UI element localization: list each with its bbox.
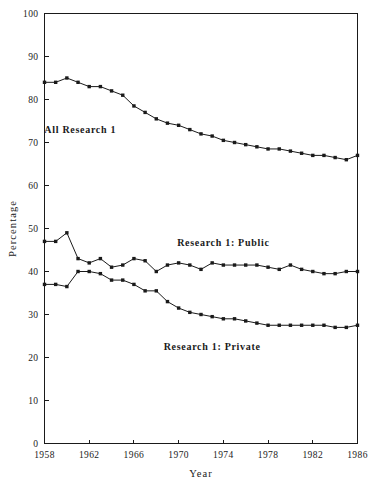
series-marker [345, 158, 348, 161]
y-tick-label: 100 [23, 9, 38, 19]
x-tick-label: 1970 [168, 450, 189, 460]
series-marker [266, 324, 269, 327]
series-marker [43, 240, 46, 243]
series-marker [255, 145, 258, 148]
series-marker [132, 283, 135, 286]
series-marker [54, 240, 57, 243]
series-marker [199, 313, 202, 316]
series-marker [333, 156, 336, 159]
series-marker [199, 268, 202, 271]
series-marker [311, 324, 314, 327]
series-marker [255, 321, 258, 324]
series-marker [132, 257, 135, 260]
chart-figure: 0102030405060708090100 19581962196619701… [0, 0, 380, 488]
series-marker [322, 272, 325, 275]
y-axis-tick-marks [45, 14, 49, 444]
series-marker [311, 154, 314, 157]
series-marker [322, 324, 325, 327]
series-marker [278, 147, 281, 150]
series-label-1: Research 1: Public [177, 237, 269, 248]
y-tick-label: 0 [33, 439, 38, 449]
series-marker [188, 263, 191, 266]
y-axis-tick-labels: 0102030405060708090100 [23, 9, 38, 449]
series-marker [255, 263, 258, 266]
series-layer [43, 76, 359, 329]
series-marker [143, 259, 146, 262]
series-marker [88, 270, 91, 273]
series-marker [155, 270, 158, 273]
series-marker [356, 154, 359, 157]
axis-frame [45, 14, 358, 444]
series-marker [289, 263, 292, 266]
y-tick-label: 90 [28, 52, 38, 62]
series-label-0: All Research 1 [44, 124, 116, 135]
series-marker [222, 317, 225, 320]
series-marker [65, 76, 68, 79]
series-marker [311, 270, 314, 273]
series-2 [43, 270, 359, 329]
series-marker [166, 300, 169, 303]
series-marker [333, 326, 336, 329]
series-marker [43, 283, 46, 286]
series-marker [88, 261, 91, 264]
series-marker [210, 134, 213, 137]
series-marker [54, 81, 57, 84]
line-chart: 0102030405060708090100 19581962196619701… [0, 0, 380, 488]
x-tick-label: 1962 [79, 450, 100, 460]
series-marker [345, 270, 348, 273]
series-marker [266, 147, 269, 150]
series-line [45, 272, 358, 328]
x-tick-label: 1966 [124, 450, 145, 460]
series-marker [356, 270, 359, 273]
series-marker [188, 311, 191, 314]
y-tick-label: 70 [28, 138, 38, 148]
series-marker [289, 324, 292, 327]
series-marker [99, 85, 102, 88]
series-marker [222, 263, 225, 266]
series-marker [166, 121, 169, 124]
series-marker [266, 266, 269, 269]
y-tick-label: 30 [28, 310, 38, 320]
series-marker [166, 263, 169, 266]
series-marker [88, 85, 91, 88]
series-marker [345, 326, 348, 329]
x-axis-tick-labels: 19581962196619701974197819821986 [34, 450, 368, 460]
series-marker [300, 324, 303, 327]
series-marker [76, 257, 79, 260]
y-tick-label: 50 [28, 224, 38, 234]
x-tick-label: 1978 [258, 450, 279, 460]
series-marker [210, 261, 213, 264]
series-marker [244, 143, 247, 146]
y-tick-label: 40 [28, 267, 38, 277]
series-marker [110, 266, 113, 269]
x-tick-label: 1982 [302, 450, 323, 460]
series-marker [121, 263, 124, 266]
y-tick-label: 10 [28, 396, 38, 406]
series-marker [333, 272, 336, 275]
series-marker [210, 315, 213, 318]
series-marker [155, 289, 158, 292]
series-marker [278, 268, 281, 271]
series-marker [188, 128, 191, 131]
series-marker [132, 104, 135, 107]
series-marker [244, 263, 247, 266]
series-marker [65, 285, 68, 288]
series-marker [300, 152, 303, 155]
series-marker [110, 89, 113, 92]
series-marker [110, 278, 113, 281]
series-marker [233, 263, 236, 266]
series-marker [143, 289, 146, 292]
series-marker [199, 132, 202, 135]
series-marker [155, 117, 158, 120]
series-marker [322, 154, 325, 157]
series-marker [289, 149, 292, 152]
x-tick-label: 1958 [34, 450, 55, 460]
series-marker [222, 139, 225, 142]
series-0 [43, 76, 359, 161]
series-marker [278, 324, 281, 327]
series-marker [65, 231, 68, 234]
x-axis-title: Year [189, 468, 213, 479]
y-axis-title: Percentage [7, 200, 18, 257]
y-tick-label: 60 [28, 181, 38, 191]
series-marker [233, 317, 236, 320]
